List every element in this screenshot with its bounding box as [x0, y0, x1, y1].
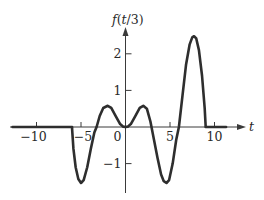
x-tick-label: 10: [207, 129, 223, 144]
y-ticks: −112: [103, 46, 131, 171]
chart: −10−50510 −112 f(t/3) t: [0, 0, 264, 200]
x-tick-label: −5: [74, 129, 92, 144]
y-axis-arrow-icon: [123, 27, 129, 36]
y-tick-label: 2: [114, 46, 122, 61]
y-tick-label: −1: [103, 156, 121, 171]
x-tick-label: −10: [20, 129, 46, 144]
y-axis-title-rest: /3): [127, 12, 144, 27]
x-tick-label: 5: [166, 129, 174, 144]
x-axis-title: t: [249, 119, 255, 134]
x-axis-arrow-icon: [237, 124, 246, 130]
y-axis-title: f(t/3): [111, 12, 144, 27]
x-tick-label: 0: [114, 129, 122, 144]
y-tick-label: 1: [114, 83, 122, 98]
